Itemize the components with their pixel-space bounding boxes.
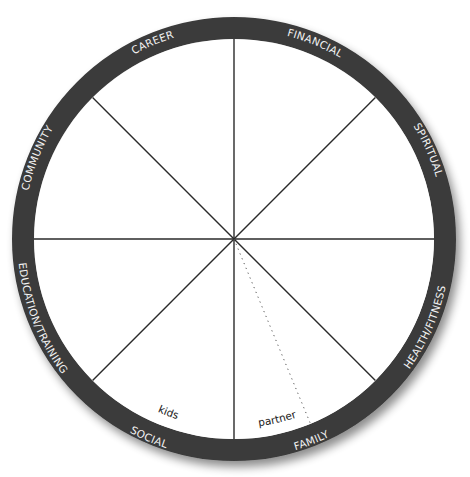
wheel-of-life-diagram: CAREER FINANCIAL SPIRITUAL HEALTH/FITNES… (0, 0, 470, 477)
